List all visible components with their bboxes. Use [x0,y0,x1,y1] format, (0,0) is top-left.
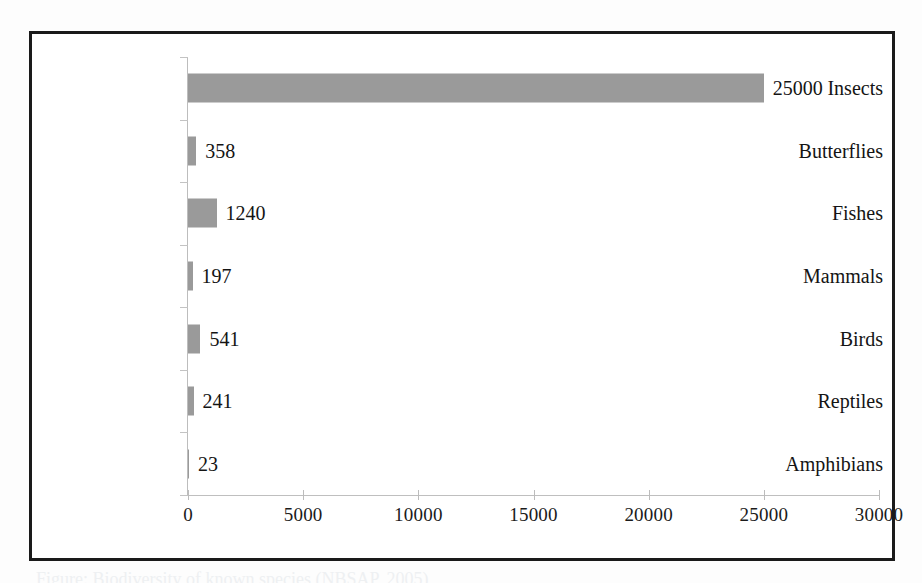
figure-caption: Figure: Biodiversity of known species (N… [36,569,736,583]
x-axis-tick [534,490,535,500]
plot-area: 050001000015000200002500030000 InsectsBu… [32,34,892,558]
bar [188,74,764,103]
category-label: Mammals [744,265,892,288]
bar-value-label: 1240 [226,202,266,225]
x-axis-tick-label: 30000 [855,504,904,526]
figure-frame: 050001000015000200002500030000 InsectsBu… [29,31,895,561]
x-axis-tick-label: 20000 [624,504,673,526]
x-axis-tick-label: 25000 [740,504,789,526]
bar-value-label: 541 [209,327,239,350]
bar [188,449,189,478]
bar [188,387,194,416]
category-label: Amphibians [744,452,892,475]
scanned-page-background: 050001000015000200002500030000 InsectsBu… [0,0,922,583]
category-label: Reptiles [744,390,892,413]
bar-value-label: 358 [205,139,235,162]
y-axis-tick [180,432,188,433]
bar [188,324,200,353]
x-axis-tick [649,490,650,500]
x-axis-tick-label: 0 [183,504,193,526]
x-axis-tick [418,490,419,500]
bar [188,262,193,291]
x-axis-tick-label: 5000 [284,504,323,526]
category-label: Birds [744,327,892,350]
bar-value-label: 25000 [773,77,823,100]
x-axis-tick [764,490,765,500]
bar-value-label: 197 [202,265,232,288]
x-axis-tick [879,490,880,500]
x-axis-tick-label: 15000 [509,504,558,526]
bar-value-label: 23 [198,452,218,475]
y-axis-tick [180,495,188,496]
category-label: Butterflies [744,139,892,162]
y-axis-tick [180,120,188,121]
bar-value-label: 241 [203,390,233,413]
x-axis-tick [188,490,189,500]
x-axis-tick [303,490,304,500]
x-axis-tick-label: 10000 [394,504,443,526]
category-label: Fishes [744,202,892,225]
y-axis-tick [180,370,188,371]
y-axis-tick [180,182,188,183]
y-axis-tick [180,57,188,58]
bar [188,199,217,228]
y-axis-tick [180,307,188,308]
y-axis-tick [180,245,188,246]
bar [188,136,196,165]
